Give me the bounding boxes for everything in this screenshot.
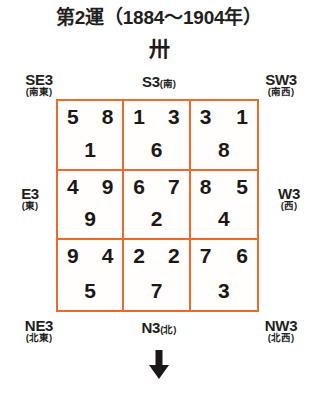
direction-label-northwest-main: NW3 — [246, 318, 316, 333]
direction-label-south-sub: (南) — [160, 78, 176, 89]
grid-cell-bottom-number-wrap: 9 — [58, 208, 122, 230]
grid-cell-top-left-number: 1 — [133, 106, 145, 127]
grid-cell-top-left-number: 5 — [67, 106, 79, 127]
direction-label-west: W3 (西) — [262, 186, 316, 211]
direction-label-southeast: SE3 (南東) — [6, 72, 72, 97]
grid-cell-bottom-number-wrap: 1 — [58, 139, 122, 161]
grid-cell-top-left-number: 6 — [133, 176, 145, 197]
grid-cell-top-numbers: 7 6 — [191, 245, 257, 266]
direction-label-west-sub: (西) — [262, 201, 316, 211]
era-glyph: 卅 — [0, 39, 318, 60]
grid-cell-top-left-number: 4 — [67, 176, 79, 197]
grid-cell-bottom-number-wrap: 5 — [58, 280, 122, 302]
grid-cell-top-numbers: 4 9 — [58, 176, 122, 197]
grid-cell-center: 6 7 2 — [124, 171, 190, 241]
grid-cell-bottom-number: 5 — [84, 280, 96, 301]
direction-label-southwest-sub: (南西) — [248, 87, 314, 97]
grid-cell-top-left-number: 9 — [67, 245, 79, 266]
grid-cell-top-right-number: 4 — [102, 245, 114, 266]
direction-label-west-main: W3 — [262, 186, 316, 201]
grid-cell-northeast: 9 4 5 — [58, 240, 124, 310]
direction-label-north: N3(北) — [109, 320, 209, 336]
direction-label-east-main: E3 — [4, 186, 56, 201]
grid-cell-southeast: 5 8 1 — [58, 101, 124, 171]
grid-cell-southwest: 3 1 8 — [191, 101, 257, 171]
grid-cell-top-numbers: 1 3 — [124, 106, 188, 127]
grid-cell-top-right-number: 9 — [102, 176, 114, 197]
grid-cell-bottom-number: 8 — [218, 139, 230, 160]
grid-cell-bottom-number-wrap: 2 — [124, 208, 188, 230]
direction-label-south: S3(南) — [109, 74, 209, 90]
direction-label-east-sub: (東) — [4, 201, 56, 211]
grid-cell-north: 2 2 7 — [124, 240, 190, 310]
grid-cell-bottom-number: 4 — [218, 208, 230, 229]
grid-cell-bottom-number: 3 — [218, 280, 230, 301]
grid-cell-top-numbers: 8 5 — [191, 176, 257, 197]
grid-cell-west: 8 5 4 — [191, 171, 257, 241]
flying-star-grid: 5 8 1 1 3 6 3 1 8 4 9 9 — [56, 99, 259, 312]
grid-cell-bottom-number-wrap: 4 — [191, 208, 257, 230]
grid-cell-bottom-number: 7 — [151, 280, 163, 301]
grid-cell-bottom-number: 2 — [151, 208, 163, 229]
grid-cell-top-right-number: 3 — [168, 106, 180, 127]
grid-cell-northwest: 7 6 3 — [191, 240, 257, 310]
grid-cell-bottom-number: 6 — [151, 139, 163, 160]
grid-cell-top-numbers: 5 8 — [58, 106, 122, 127]
direction-label-northwest-sub: (北西) — [246, 333, 316, 343]
grid-cell-bottom-number-wrap: 7 — [124, 280, 188, 302]
grid-cell-top-right-number: 7 — [168, 176, 180, 197]
direction-label-southwest: SW3 (南西) — [248, 72, 314, 97]
grid-cell-bottom-number-wrap: 3 — [191, 280, 257, 302]
grid-cell-bottom-number-wrap: 6 — [124, 139, 188, 161]
direction-label-northwest: NW3 (北西) — [246, 318, 316, 343]
grid-cell-east: 4 9 9 — [58, 171, 124, 241]
grid-cell-top-left-number: 7 — [200, 245, 212, 266]
direction-label-east: E3 (東) — [4, 186, 56, 211]
grid-cell-top-numbers: 2 2 — [124, 245, 188, 266]
down-arrow-container — [0, 350, 318, 383]
grid-cell-top-right-number: 1 — [236, 106, 248, 127]
direction-label-northeast: NE3 (北東) — [4, 318, 74, 343]
grid-cell-top-left-number: 8 — [200, 176, 212, 197]
direction-label-northeast-sub: (北東) — [4, 333, 74, 343]
direction-label-north-sub: (北) — [160, 324, 176, 335]
grid-cell-bottom-number: 1 — [84, 139, 96, 160]
grid-cell-top-right-number: 8 — [102, 106, 114, 127]
grid-cell-bottom-number-wrap: 8 — [191, 139, 257, 161]
direction-label-south-main: S3 — [142, 73, 160, 90]
grid-cell-bottom-number: 9 — [84, 208, 96, 229]
direction-label-southeast-sub: (南東) — [6, 87, 72, 97]
grid-cell-top-left-number: 3 — [200, 106, 212, 127]
direction-label-north-main: N3 — [142, 319, 161, 336]
grid-cell-top-numbers: 3 1 — [191, 106, 257, 127]
direction-label-southwest-main: SW3 — [248, 72, 314, 87]
page-title: 第2運（1884〜1904年） — [0, 2, 318, 29]
grid-cell-top-right-number: 6 — [236, 245, 248, 266]
down-arrow-icon — [148, 350, 170, 380]
direction-label-northeast-main: NE3 — [4, 318, 74, 333]
grid-cell-top-numbers: 9 4 — [58, 245, 122, 266]
grid-cell-top-numbers: 6 7 — [124, 176, 188, 197]
grid-cell-south: 1 3 6 — [124, 101, 190, 171]
grid-cell-top-right-number: 2 — [168, 245, 180, 266]
grid-cell-top-left-number: 2 — [133, 245, 145, 266]
grid-cell-top-right-number: 5 — [236, 176, 248, 197]
direction-label-southeast-main: SE3 — [6, 72, 72, 87]
